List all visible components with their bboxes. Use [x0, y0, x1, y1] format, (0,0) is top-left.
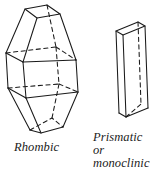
caption-prismatic-line-2: or — [93, 144, 150, 157]
prismatic-top-face — [116, 22, 145, 35]
rhombic-prism-hidden-edge — [56, 47, 59, 84]
caption-prismatic-line-1: Prismatic — [93, 131, 150, 144]
caption-prismatic: Prismatic or monoclinic — [93, 131, 150, 169]
rhombic-girdle-lower-hidden-left — [8, 84, 59, 88]
rhombic-prism-edge-left — [6, 53, 8, 88]
caption-rhombic: Rhombic — [14, 141, 59, 154]
rhombic-girdle-lower-front — [26, 92, 78, 98]
rhombic-top-face — [25, 5, 60, 18]
rhombic-girdle-upper-left — [6, 53, 23, 62]
rhombic-girdle-lower-hidden-right — [59, 84, 78, 92]
prismatic-edge-front-right — [123, 35, 126, 117]
rhombic-girdle-hidden-back-right — [56, 47, 76, 60]
rhombic-upper-edge-front — [23, 18, 37, 62]
rhombic-lower-hidden-edge — [52, 84, 59, 118]
prismatic-bottom-face-front — [119, 108, 148, 117]
rhombic-girdle-upper-front — [23, 60, 76, 62]
rhombic-upper-edge-left — [6, 9, 25, 53]
rhombic-girdle-hidden-back-left — [6, 47, 56, 53]
rhombic-upper-hidden-edge — [47, 5, 56, 47]
prismatic-edge-front-left — [116, 31, 119, 113]
rhombic-upper-edge-right — [60, 14, 76, 60]
prismatic-edge-outer-right — [145, 26, 148, 108]
rhombic-lower-edge-right — [63, 92, 78, 127]
prismatic-hidden-edge — [138, 22, 141, 104]
rhombic-bottom-face-front — [30, 127, 63, 133]
crystal-habit-figure: Rhombic Prismatic or monoclinic — [0, 0, 159, 173]
rhombic-prism-edge-right — [76, 60, 78, 92]
rhombic-prism-edge-front — [23, 62, 26, 98]
caption-prismatic-line-3: monoclinic — [93, 157, 150, 170]
prismatic-bottom-face-hidden — [126, 104, 141, 117]
